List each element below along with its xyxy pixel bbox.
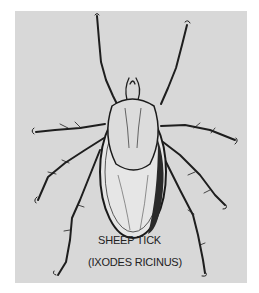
caption-common-name: SHEEP TICK	[98, 234, 178, 246]
caption-scientific-name: (IXODES RICINUS)	[88, 256, 188, 268]
sheep-tick-drawing	[0, 0, 259, 293]
